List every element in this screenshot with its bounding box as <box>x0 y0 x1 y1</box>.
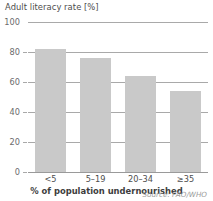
source-note: Source: FAO/WHO <box>143 190 207 199</box>
y-axis-tick <box>23 172 27 173</box>
x-axis-tick-label: ≥35 <box>163 174 208 184</box>
y-axis-tick <box>23 82 27 83</box>
y-axis-tick <box>23 52 27 53</box>
x-axis-tick-labels: <55–1920–34≥35 <box>28 174 208 186</box>
bar-chart: Adult literacy rate [%] 020406080100 <55… <box>0 0 213 201</box>
y-axis-tick-label: 0 <box>15 167 20 177</box>
gridline <box>28 172 208 173</box>
bar <box>80 58 112 172</box>
y-axis-tick-label: 80 <box>10 47 20 57</box>
bars-group <box>28 22 208 172</box>
bar <box>35 49 67 172</box>
plot-area: 020406080100 <box>28 22 208 172</box>
y-axis-tick-label: 100 <box>4 17 20 27</box>
y-axis-tick-label: 60 <box>10 77 20 87</box>
x-axis-tick-label: <5 <box>28 174 73 184</box>
x-axis-tick-label: 20–34 <box>118 174 163 184</box>
x-axis-tick-label: 5–19 <box>73 174 118 184</box>
y-axis-tick-label: 40 <box>10 107 20 117</box>
y-axis-tick <box>23 142 27 143</box>
y-axis-tick <box>23 112 27 113</box>
y-axis-tick-label: 20 <box>10 137 20 147</box>
bar <box>170 91 202 172</box>
bar <box>125 76 157 172</box>
y-axis-title: Adult literacy rate [%] <box>5 2 99 12</box>
